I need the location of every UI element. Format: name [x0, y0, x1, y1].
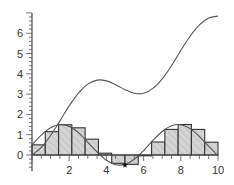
riemann-bar: [59, 125, 72, 155]
y-tick-label: 0: [17, 149, 23, 161]
riemann-bar: [152, 142, 165, 155]
x-tick-label: 4: [103, 164, 109, 176]
riemann-bar: [112, 155, 125, 163]
y-tick-label: 5: [17, 48, 23, 60]
y-tick-label: 1: [17, 129, 23, 141]
y-tick-label: 3: [17, 88, 23, 100]
x-tick-label: 8: [178, 164, 184, 176]
y-tick-label: 2: [17, 108, 23, 120]
x-tick-label: 2: [66, 164, 72, 176]
x-tick-label: 6: [141, 164, 147, 176]
riemann-sum-chart: 0123456246810: [0, 0, 234, 185]
riemann-bar: [178, 125, 191, 155]
riemann-bar: [165, 129, 178, 155]
riemann-bar: [125, 155, 138, 164]
riemann-bar: [45, 132, 58, 155]
riemann-bar: [191, 129, 204, 155]
y-tick-label: 4: [17, 68, 23, 80]
x-tick-label: 10: [212, 164, 224, 176]
riemann-bar: [72, 128, 85, 155]
y-tick-label: 6: [17, 27, 23, 39]
